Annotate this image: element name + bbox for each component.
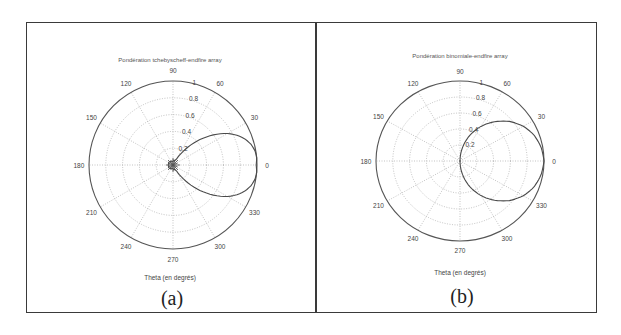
panel-caption-b: (b): [450, 285, 473, 308]
angular-gridline: [173, 165, 215, 238]
angular-gridline: [418, 161, 460, 230]
chart-title-b: Pondération binomiale-endfire array: [412, 53, 507, 59]
radial-tick-label: 0.8: [476, 94, 485, 101]
angle-tick-label: 60: [503, 80, 511, 87]
angle-tick-label: 330: [536, 202, 547, 209]
x-axis-label-a: Theta (en degrés): [144, 274, 196, 281]
angular-gridline: [100, 165, 173, 207]
chart-title-a: Pondération tchebyscheff-endfire array: [118, 57, 221, 63]
angle-tick-label: 0: [552, 158, 556, 165]
angle-tick-label: 120: [121, 80, 132, 87]
angular-gridline: [387, 161, 460, 201]
angle-tick-label: 150: [373, 113, 384, 120]
angular-gridline: [418, 92, 460, 161]
angle-tick-label: 0: [265, 162, 269, 169]
angle-tick-label: 30: [251, 114, 259, 121]
radial-tick-label: 0.4: [182, 128, 191, 135]
angle-tick-label: 300: [502, 235, 513, 242]
angle-tick-label: 210: [86, 209, 97, 216]
angle-tick-label: 60: [216, 80, 224, 87]
angular-gridline: [131, 165, 173, 238]
angle-tick-label: 180: [73, 162, 84, 169]
angle-tick-label: 120: [408, 80, 419, 87]
angle-tick-label: 150: [86, 114, 97, 121]
angle-tick-label: 300: [215, 243, 226, 250]
radial-tick-label: 1: [192, 79, 196, 86]
radial-tick-label: 0.2: [465, 141, 474, 148]
angle-tick-label: 240: [121, 243, 132, 250]
angular-gridline: [173, 165, 246, 207]
polar-plots: 03060901201501802102402703003300.20.40.6…: [0, 0, 621, 335]
angular-gridline: [131, 92, 173, 165]
angle-tick-label: 270: [455, 247, 466, 254]
angle-tick-label: 240: [408, 235, 419, 242]
radial-tick-label: 0.6: [185, 112, 194, 119]
angular-gridline: [100, 123, 173, 165]
angle-tick-label: 30: [538, 113, 546, 120]
radial-tick-label: 0.8: [189, 95, 198, 102]
angle-tick-label: 210: [373, 202, 384, 209]
angle-tick-label: 180: [360, 158, 371, 165]
radial-tick-label: 1: [479, 79, 483, 86]
angular-gridline: [173, 92, 215, 165]
x-axis-label-b: Theta (en degrés): [434, 269, 486, 276]
polar-plot-a: 03060901201501802102402703003300.20.40.6…: [73, 67, 269, 262]
panel-caption-a: (a): [161, 287, 183, 310]
angle-tick-label: 90: [169, 67, 177, 74]
polar-plot-b: 03060901201501802102402703003300.20.40.6…: [360, 68, 556, 254]
angular-gridline: [460, 161, 533, 201]
angle-tick-label: 90: [456, 68, 464, 75]
angle-tick-label: 270: [168, 256, 179, 263]
angle-tick-label: 330: [249, 209, 260, 216]
angular-gridline: [387, 121, 460, 161]
radial-tick-label: 0.6: [472, 110, 481, 117]
